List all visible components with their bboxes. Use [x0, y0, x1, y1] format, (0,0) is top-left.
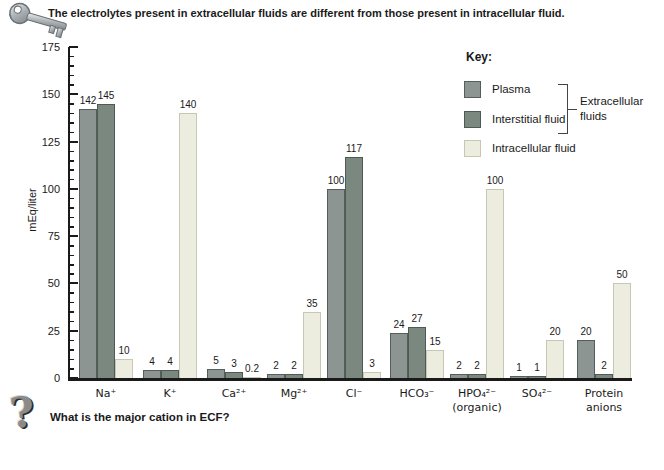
- bar: [528, 376, 546, 378]
- legend: Key: PlasmaInterstitial fluidIntracellul…: [452, 48, 664, 168]
- y-tick-label: 175: [30, 41, 60, 53]
- bar: [426, 350, 444, 378]
- bar-value-label: 10: [118, 345, 129, 356]
- bar: [267, 374, 285, 378]
- legend-bracket-label: Extracellular fluids: [580, 94, 660, 124]
- bar: [97, 104, 115, 378]
- bar-value-label: 5: [213, 355, 219, 366]
- bar-value-label: 142: [80, 95, 97, 106]
- bar: [327, 189, 345, 378]
- bar-group-4: 2235Mg²⁺: [267, 47, 321, 378]
- figure-title: The electrolytes present in extracellula…: [48, 7, 648, 21]
- bar: [303, 312, 321, 378]
- bar: [408, 327, 426, 378]
- bar: [225, 372, 243, 378]
- bar-value-label: 2: [456, 360, 462, 371]
- question-text: What is the major cation in ECF?: [50, 411, 230, 423]
- bar: [143, 370, 161, 378]
- electrolyte-bar-chart-figure: The electrolytes present in extracellula…: [0, 0, 664, 470]
- bar-value-label: 20: [549, 326, 560, 337]
- bar-value-label: 27: [411, 313, 422, 324]
- legend-item-label: Plasma: [492, 83, 530, 95]
- bar: [243, 377, 261, 378]
- bar: [207, 369, 225, 378]
- legend-title: Key:: [466, 50, 492, 64]
- legend-item-1: Plasma: [464, 80, 530, 98]
- bar: [577, 340, 595, 378]
- bar-value-label: 117: [346, 143, 362, 154]
- category-label: SO₄²⁻: [522, 387, 552, 401]
- bar-group-3: 530.2Ca²⁺: [207, 47, 261, 378]
- bar: [486, 189, 504, 378]
- bar-value-label: 20: [580, 326, 591, 337]
- bar-value-label: 2: [601, 360, 607, 371]
- legend-item-2: Interstitial fluid: [464, 110, 566, 128]
- legend-item-label: Interstitial fluid: [492, 113, 566, 125]
- bar-value-label: 50: [616, 269, 627, 280]
- bar: [595, 374, 613, 378]
- bar-value-label: 2: [273, 360, 279, 371]
- y-tick-label: 100: [30, 183, 60, 195]
- bar-group-1: 14214510Na⁺: [79, 47, 133, 378]
- bar-value-label: 2: [291, 360, 297, 371]
- bar: [345, 157, 363, 378]
- legend-item-label: Intracellular fluid: [492, 142, 576, 154]
- category-label: Ca²⁺: [222, 387, 247, 401]
- bar-group-2: 44140K⁺: [143, 47, 197, 378]
- y-tick-label: 50: [30, 277, 60, 289]
- bar-value-label: 145: [98, 90, 115, 101]
- category-label: Proteinanions: [585, 387, 624, 415]
- bar-value-label: 24: [393, 319, 404, 330]
- category-label: Na⁺: [96, 387, 117, 401]
- bar: [546, 340, 564, 378]
- y-tick-label: 25: [30, 325, 60, 337]
- question-icon: ?: [8, 391, 37, 435]
- bar: [468, 374, 486, 378]
- bar-value-label: 4: [149, 356, 155, 367]
- bar-value-label: 100: [328, 175, 345, 186]
- bar-value-label: 0.2: [245, 363, 259, 374]
- y-tick-label: 125: [30, 136, 60, 148]
- legend-swatch: [464, 81, 481, 98]
- y-tick-label: 75: [30, 230, 60, 242]
- legend-swatch: [464, 111, 481, 128]
- category-label: K⁺: [163, 387, 176, 401]
- bar: [450, 374, 468, 378]
- category-label: Cl⁻: [346, 387, 363, 401]
- bar-value-label: 15: [429, 336, 440, 347]
- bar: [161, 370, 179, 378]
- bar-value-label: 1: [534, 362, 540, 373]
- bar-value-label: 4: [167, 356, 173, 367]
- bar-group-5: 1001173Cl⁻: [327, 47, 381, 378]
- category-label: Mg²⁺: [281, 387, 308, 401]
- bar: [510, 376, 528, 378]
- legend-item-3: Intracellular fluid: [464, 139, 576, 157]
- bar-value-label: 35: [306, 298, 317, 309]
- bar: [285, 374, 303, 378]
- bar: [79, 109, 97, 378]
- category-label: HCO₃⁻: [400, 387, 435, 401]
- bar-value-label: 3: [369, 358, 375, 369]
- bar-group-6: 242715HCO₃⁻: [390, 47, 444, 378]
- bar: [115, 359, 133, 378]
- legend-bracket: [558, 84, 568, 134]
- bar-value-label: 3: [231, 358, 237, 369]
- bar-value-label: 100: [487, 175, 504, 186]
- y-tick-label: 0: [30, 372, 60, 384]
- legend-swatch: [464, 140, 481, 157]
- category-label: HPO₄²⁻(organic): [452, 387, 501, 415]
- bar: [363, 372, 381, 378]
- y-tick-label: 150: [30, 88, 60, 100]
- bar-value-label: 2: [474, 360, 480, 371]
- bar: [613, 283, 631, 378]
- legend-bracket-label-line1: Extracellular: [580, 94, 660, 109]
- bar: [179, 113, 197, 378]
- bar-value-label: 140: [180, 99, 197, 110]
- legend-bracket-label-line2: fluids: [580, 109, 660, 124]
- bar-value-label: 1: [516, 362, 522, 373]
- bar: [390, 333, 408, 378]
